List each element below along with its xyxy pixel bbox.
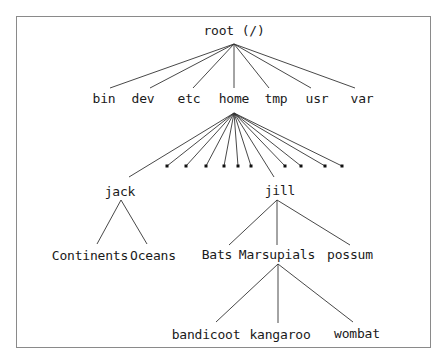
node-kangaroo: kangaroo: [249, 327, 310, 342]
node-root: root (/): [203, 23, 264, 38]
tree-edges: [0, 0, 442, 364]
node-bats: Bats: [202, 247, 233, 262]
node-jill: jill: [265, 183, 296, 198]
node-bin: bin: [93, 91, 116, 106]
node-home: home: [219, 91, 250, 106]
node-usr: usr: [306, 91, 329, 106]
node-continents: Continents: [52, 248, 128, 263]
node-marsupials: Marsupials: [239, 247, 315, 262]
node-oceans: Oceans: [130, 248, 176, 263]
node-possum: possum: [327, 247, 373, 262]
node-var: var: [351, 91, 374, 106]
node-etc: etc: [178, 91, 201, 106]
user-markers: [166, 165, 344, 168]
node-dev: dev: [132, 91, 155, 106]
node-wombat: wombat: [334, 326, 380, 341]
node-bandicoot: bandicoot: [172, 327, 241, 342]
node-jack: jack: [105, 184, 136, 199]
node-tmp: tmp: [265, 91, 288, 106]
